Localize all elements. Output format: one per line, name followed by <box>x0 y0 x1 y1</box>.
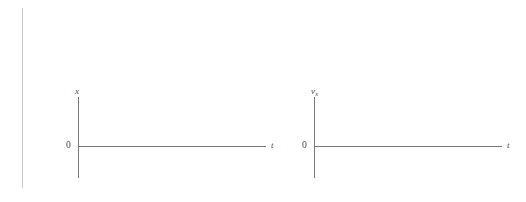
page-margin-rule <box>22 8 23 188</box>
x-axis-line-plot1 <box>78 146 266 147</box>
origin-label-plot1: 0 <box>66 141 71 151</box>
x-axis-line-plot2 <box>314 146 502 147</box>
y-axis-label-subscript-plot2: x <box>315 90 318 97</box>
y-axis-label-plot2: vx <box>311 87 318 96</box>
x-axis-label-plot1: t <box>271 141 274 150</box>
y-axis-label-text-plot1: x <box>75 86 79 96</box>
physics-blank-graphs-figure: x 0 t vx 0 t <box>0 0 526 202</box>
x-axis-label-plot2: t <box>507 141 510 150</box>
y-axis-line-plot2 <box>314 97 315 178</box>
origin-label-plot2: 0 <box>302 141 307 151</box>
y-axis-label-plot1: x <box>75 87 79 96</box>
y-axis-line-plot1 <box>78 97 79 178</box>
